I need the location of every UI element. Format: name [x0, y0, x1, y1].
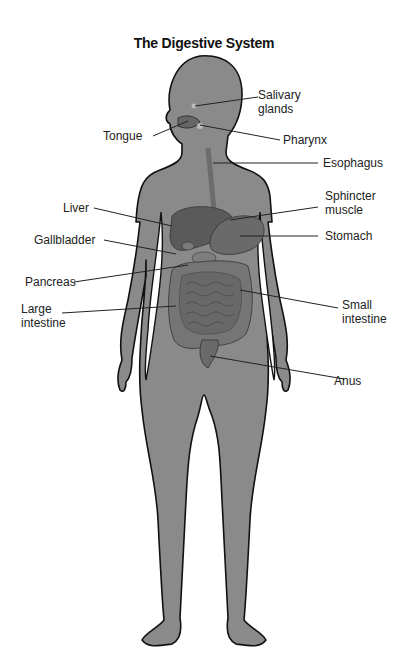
label-stomach: Stomach — [325, 229, 372, 243]
label-sphincter-muscle: Sphincter muscle — [325, 189, 376, 217]
label-anus: Anus — [334, 374, 361, 388]
label-gallbladder: Gallbladder — [34, 233, 95, 247]
label-pancreas: Pancreas — [25, 275, 76, 289]
label-liver: Liver — [63, 201, 89, 215]
label-small-intestine: Small intestine — [342, 298, 387, 326]
gallbladder-organ — [182, 242, 194, 250]
label-esophagus: Esophagus — [323, 156, 383, 170]
label-salivary-glands: Salivary glands — [258, 88, 301, 116]
human-body-figure — [0, 0, 408, 669]
label-pharynx: Pharynx — [283, 133, 327, 147]
label-large-intestine: Large intestine — [21, 302, 66, 330]
label-tongue: Tongue — [103, 129, 142, 143]
